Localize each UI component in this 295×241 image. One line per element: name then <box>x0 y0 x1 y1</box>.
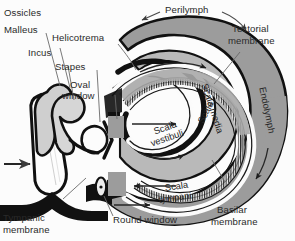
label-helicotrema: Helicotrema <box>52 33 104 44</box>
label-tectorial-line2: membrane <box>228 36 275 47</box>
label-malleus: Malleus <box>4 25 38 36</box>
label-tympanic-line2: membrane <box>3 225 50 236</box>
label-oval-window-line1: Oval <box>70 80 90 91</box>
label-perilymph: Perilymph <box>165 5 209 16</box>
label-stapes: Stapes <box>55 62 85 73</box>
label-round-window: Round window <box>113 215 177 226</box>
label-incus: Incus <box>28 48 51 59</box>
label-oval-window-line2: window <box>62 91 95 102</box>
round-window-shape <box>96 178 106 197</box>
label-ossicles: Ossicles <box>4 8 41 19</box>
label-basilar-line1: Basilar <box>217 205 247 216</box>
label-tectorial-line1: Tectorial <box>232 24 269 35</box>
cochlea-diagram: Ossicles Malleus Incus Stapes Helicotrem… <box>0 0 295 241</box>
middle-ear-structure <box>0 85 124 221</box>
label-basilar-line2: membrane <box>211 217 258 228</box>
label-tympanic-line1: Tympanic <box>3 213 45 224</box>
